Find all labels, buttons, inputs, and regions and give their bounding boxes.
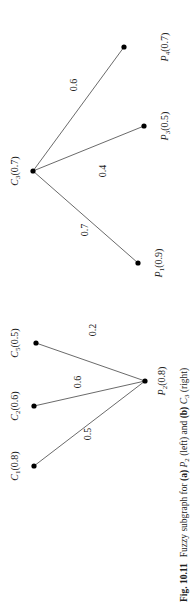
node-p1	[135, 260, 140, 265]
label-p3: P3(0.5)	[159, 112, 172, 142]
subgraph-a-p2: 0.2 0.6 0.5 P2(0.8) C5(0.5) C2(0.6) C1(0…	[9, 324, 169, 481]
node-c1	[31, 463, 36, 468]
node-c3	[30, 168, 35, 173]
label-c3: C3(0.7)	[9, 156, 22, 185]
node-c2	[31, 403, 36, 408]
node-p4	[121, 44, 126, 49]
weight-c3-p3: 0.4	[97, 165, 108, 178]
node-c5	[33, 340, 38, 345]
label-p2: P2(0.8)	[156, 367, 169, 397]
label-p1: P1(0.9)	[153, 249, 166, 279]
weight-c3-p4: 0.6	[68, 79, 79, 92]
subgraph-b-c3: 0.6 0.4 0.7 C3(0.7) P4(0.7) P3(0.5) P1(0…	[9, 33, 172, 279]
label-p4: P4(0.7)	[159, 33, 172, 63]
node-p3	[141, 123, 146, 128]
label-c2: C2(0.6)	[9, 391, 22, 420]
node-p2	[142, 378, 147, 383]
weight-c3-p1: 0.7	[79, 224, 90, 237]
figure-caption: Fig. 10.11Fuzzy subgraph for (a) P2 (lef…	[179, 368, 191, 602]
weight-c1-p2: 0.5	[82, 428, 93, 441]
edge-c3-p1	[33, 171, 138, 263]
edge-c5-p2	[36, 343, 145, 381]
label-c5: C5(0.5)	[9, 328, 22, 357]
fuzzy-subgraph-figure: 0.6 0.4 0.7 C3(0.7) P4(0.7) P3(0.5) P1(0…	[0, 0, 193, 609]
weight-c2-p2: 0.6	[72, 376, 83, 389]
weight-c5-p2: 0.2	[87, 324, 98, 337]
label-c1: C1(0.8)	[9, 451, 22, 480]
